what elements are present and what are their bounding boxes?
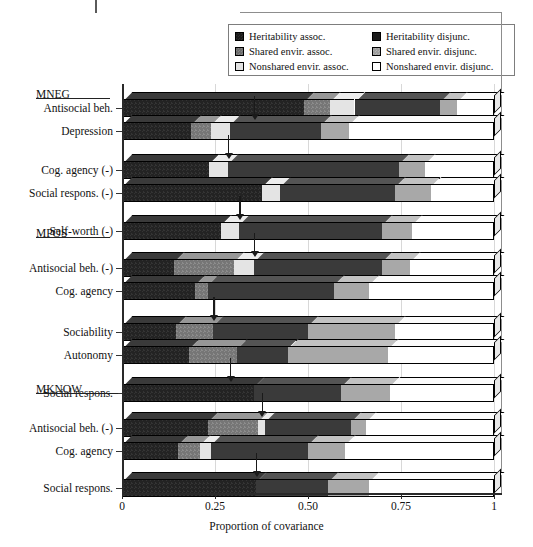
marker-arrow-head [251, 114, 259, 120]
legend-item-shared-envir-disjunc: Shared envir. disjunc. [372, 46, 509, 57]
bar-segment-top [217, 316, 319, 323]
legend-label: Heritability assoc. [249, 31, 325, 42]
bar-segment-she-d [395, 184, 430, 202]
bar-segment-top [259, 472, 339, 479]
bar-segment-top [243, 215, 393, 222]
bar-segment-her-a [122, 442, 178, 460]
bar-segment-top [393, 377, 504, 384]
bar[interactable] [122, 384, 494, 402]
x-axis-tick-label: 0.50 [288, 500, 328, 512]
bar-segment-her-d [211, 442, 308, 460]
bar-segment-top [233, 115, 331, 122]
bar-segment-non-d [345, 442, 494, 460]
bar-segment-top [416, 215, 505, 222]
marker-arrow-head [258, 411, 266, 417]
bar-segment-top [291, 339, 398, 346]
x-axis-tick-label: 0.25 [195, 500, 235, 512]
bar-segment-top [284, 177, 406, 184]
x-axis-tick [401, 493, 402, 499]
legend-row: Nonshared envir. assoc. Nonshared envir.… [235, 59, 509, 74]
legend-row: Heritability assoc. Heritability disjunc… [235, 29, 509, 44]
marker-arrow-head [236, 214, 244, 220]
bar-segment-her-a [122, 346, 189, 364]
legend-item-shared-envir-assoc: Shared envir. assoc. [235, 46, 372, 57]
bar-segment-non-a [200, 442, 211, 460]
row-label-antisocial-beh: Antisocial beh. [0, 102, 113, 114]
group-rule [36, 237, 110, 238]
bar-segment-top [126, 154, 220, 161]
y-axis-line [122, 84, 124, 493]
bar[interactable] [122, 184, 494, 202]
bar-segment-her-d [280, 184, 395, 202]
bar-segment-her-d [237, 346, 287, 364]
bar[interactable] [122, 122, 494, 140]
bar-segment-non-a [221, 222, 240, 240]
bar-segment-she-d [288, 346, 388, 364]
bar-segment-top [126, 177, 273, 184]
row-label-depression: Depression [0, 125, 113, 137]
bar-segment-top [126, 275, 206, 282]
bar-segment-top [391, 339, 504, 346]
bar-segment-non-d [431, 184, 494, 202]
plot-frame-top [240, 12, 502, 13]
row-label-antisocial-beh: Antisocial beh. (-) [0, 422, 113, 434]
bar-segment-she-d [321, 122, 349, 140]
bar-segment-top [126, 316, 187, 323]
x-axis-tick-label: 1 [474, 500, 514, 512]
bar-segment-her-d [239, 222, 382, 240]
bar-segment-she-a [191, 122, 211, 140]
bar-segment-top [369, 412, 504, 419]
bar-segment-her-a [122, 282, 195, 300]
bar-segment-her-a [122, 184, 262, 202]
bar-segment-top [126, 339, 200, 346]
bar-segment-top [414, 252, 505, 259]
x-axis-title: Proportion of covariance [0, 520, 533, 532]
legend-row: Shared envir. assoc. Shared envir. disju… [235, 44, 509, 59]
bar-segment-top [269, 412, 362, 419]
bar-segment-top [126, 377, 265, 384]
bar-segment-non-a [262, 184, 281, 202]
shared-envir-disjunc-swatch-icon [372, 47, 381, 56]
row-label-sociability: Sociability [0, 326, 113, 338]
bar-segment-top [345, 377, 400, 384]
bar-segment-she-d [308, 442, 345, 460]
bar-segment-top [352, 115, 504, 122]
x-axis-tick-label: 0 [102, 500, 142, 512]
bar-segment-top [126, 472, 267, 479]
row-label-cog-agency: Cog. agency [0, 285, 113, 297]
row-label-social-respons: Social respons. (-) [0, 187, 113, 199]
bar[interactable] [122, 222, 494, 240]
row-label-cog-agency: Cog. agency [0, 445, 113, 457]
bar-segment-her-a [122, 384, 254, 402]
shared-envir-assoc-swatch-icon [235, 47, 244, 56]
bar[interactable] [122, 442, 494, 460]
legend-label: Shared envir. disjunc. [386, 46, 477, 57]
legend-item-nonshared-envir-disjunc: Nonshared envir. disjunc. [372, 61, 509, 72]
top-divider-tick [95, 0, 97, 13]
nonshared-envir-disjunc-swatch-icon [372, 62, 381, 71]
x-axis-tick [215, 493, 216, 499]
marker-arrow-head [227, 376, 235, 382]
bar-segment-her-d [254, 384, 341, 402]
bar-segment-top [312, 316, 406, 323]
bar[interactable] [122, 346, 494, 364]
bar-segment-top [373, 472, 505, 479]
legend-item-heritability-disjunc: Heritability disjunc. [372, 31, 509, 42]
bar-segment-top [399, 316, 505, 323]
bar-segment-her-d [230, 122, 321, 140]
bar-segment-she-d [334, 282, 369, 300]
bar[interactable] [122, 282, 494, 300]
marker-arrow-head [251, 251, 259, 257]
marker-arrow-head [253, 471, 261, 477]
chart-legend: Heritability assoc. Heritability disjunc… [228, 24, 515, 76]
bar-segment-top [232, 154, 410, 161]
legend-label: Heritability disjunc. [386, 31, 470, 42]
x-axis-tick [494, 493, 495, 499]
bar-segment-top [178, 252, 245, 259]
x-axis-tick-label: 0.75 [381, 500, 421, 512]
legend-item-heritability-assoc: Heritability assoc. [235, 31, 372, 42]
bar-segment-top [126, 412, 219, 419]
heritability-disjunc-swatch-icon [372, 32, 381, 41]
bar-segment-top [258, 377, 352, 384]
marker-arrow-head [225, 153, 233, 159]
